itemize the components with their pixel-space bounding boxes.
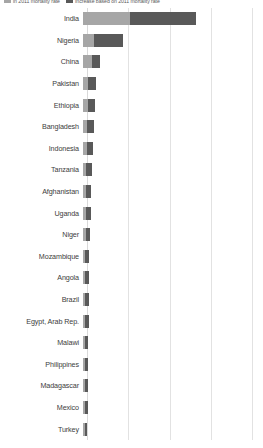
bar-segment-increase	[88, 99, 96, 112]
legend-label-increase: Increase based on 2011 mortality rate	[75, 0, 160, 4]
bar-segment-increase	[87, 120, 94, 133]
category-label: Malawi	[0, 338, 83, 347]
stacked-bar	[83, 185, 91, 198]
legend-swatch-increase	[66, 0, 73, 3]
table-row: India	[0, 8, 263, 30]
bar-track	[83, 8, 263, 30]
category-label: Afghanistan	[0, 187, 83, 196]
stacked-bar	[83, 358, 88, 371]
bar-segment-increase	[87, 142, 93, 155]
bar-track	[83, 159, 263, 181]
bar-track	[83, 267, 263, 289]
bar-segment-increase	[85, 358, 88, 371]
bar-track	[83, 202, 263, 224]
stacked-bar	[83, 207, 91, 220]
category-label: Nigeria	[0, 36, 83, 45]
stacked-bar	[83, 77, 96, 90]
table-row: Pakistan	[0, 73, 263, 95]
bar-segment-increase	[85, 379, 88, 392]
chart-legend: in 2011 mortality rate Increase based on…	[0, 0, 263, 6]
table-row: Nigeria	[0, 30, 263, 52]
table-row: Uganda	[0, 202, 263, 224]
table-row: Mexico	[0, 397, 263, 419]
category-label: Egypt, Arab Rep.	[0, 317, 83, 326]
table-row: Malawi	[0, 332, 263, 354]
plot-area: IndiaNigeriaChinaPakistanEthiopiaBanglad…	[0, 8, 263, 448]
table-row: Turkey	[0, 418, 263, 440]
category-label: Mexico	[0, 403, 83, 412]
bar-track	[83, 289, 263, 311]
stacked-bar	[83, 163, 92, 176]
bar-segment-increase	[92, 55, 99, 68]
category-label: Turkey	[0, 425, 83, 434]
bar-segment-increase	[86, 163, 92, 176]
bar-segment-increase	[86, 228, 90, 241]
bar-track	[83, 116, 263, 138]
table-row: Ethiopia	[0, 94, 263, 116]
bar-track	[83, 30, 263, 52]
bar-segment-increase	[85, 315, 89, 328]
bar-track	[83, 51, 263, 73]
legend-swatch-baseline	[4, 0, 11, 3]
table-row: Niger	[0, 224, 263, 246]
category-label: Uganda	[0, 209, 83, 218]
table-row: Bangladesh	[0, 116, 263, 138]
bar-segment-baseline	[83, 55, 92, 68]
bar-segment-increase	[88, 77, 96, 90]
bar-segment-increase	[94, 34, 123, 47]
table-row: Tanzania	[0, 159, 263, 181]
stacked-bar	[83, 12, 196, 25]
bar-segment-increase	[86, 207, 91, 220]
table-row: Madagascar	[0, 375, 263, 397]
category-label: Tanzania	[0, 165, 83, 174]
bar-track	[83, 354, 263, 376]
bar-segment-increase	[130, 12, 196, 25]
bar-segment-increase	[85, 271, 89, 284]
category-label: India	[0, 14, 83, 23]
bar-segment-increase	[85, 250, 89, 263]
stacked-bar	[83, 293, 89, 306]
stacked-bar	[83, 34, 123, 47]
stacked-bar	[83, 228, 90, 241]
category-label: Philippines	[0, 360, 83, 369]
bar-track	[83, 94, 263, 116]
table-row: Angola	[0, 267, 263, 289]
category-label: China	[0, 57, 83, 66]
table-row: China	[0, 51, 263, 73]
stacked-bar	[83, 250, 89, 263]
table-row: Mozambique	[0, 246, 263, 268]
stacked-bar	[83, 336, 88, 349]
stacked-bar	[83, 423, 87, 436]
bar-segment-increase	[85, 336, 88, 349]
bar-track	[83, 397, 263, 419]
bar-track	[83, 310, 263, 332]
category-label: Indonesia	[0, 144, 83, 153]
stacked-bar	[83, 55, 100, 68]
stacked-bar	[83, 379, 88, 392]
bar-segment-baseline	[83, 34, 94, 47]
category-label: Madagascar	[0, 381, 83, 390]
category-label: Angola	[0, 273, 83, 282]
category-label: Pakistan	[0, 79, 83, 88]
category-label: Ethiopia	[0, 101, 83, 110]
bar-track	[83, 73, 263, 95]
legend-label-baseline: in 2011 mortality rate	[13, 0, 60, 4]
stacked-bar	[83, 315, 89, 328]
bar-segment-baseline	[83, 12, 130, 25]
stacked-bar	[83, 401, 88, 414]
category-label: Niger	[0, 230, 83, 239]
bar-segment-increase	[85, 401, 88, 414]
bar-track	[83, 246, 263, 268]
table-row: Indonesia	[0, 138, 263, 160]
stacked-bar	[83, 142, 93, 155]
bar-rows: IndiaNigeriaChinaPakistanEthiopiaBanglad…	[0, 8, 263, 440]
legend-item-baseline: in 2011 mortality rate	[4, 0, 60, 4]
bar-track	[83, 138, 263, 160]
bar-track	[83, 418, 263, 440]
legend-item-increase: Increase based on 2011 mortality rate	[66, 0, 160, 4]
stacked-bar	[83, 99, 95, 112]
bar-track	[83, 181, 263, 203]
category-label: Bangladesh	[0, 122, 83, 131]
stacked-bar-chart: in 2011 mortality rate Increase based on…	[0, 0, 263, 448]
bar-segment-increase	[85, 293, 89, 306]
